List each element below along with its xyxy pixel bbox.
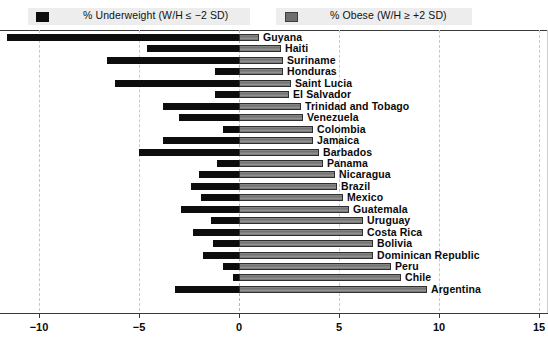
tick-label: 0 bbox=[236, 321, 242, 333]
country-label: Saint Lucia bbox=[295, 77, 352, 89]
bar-underweight[interactable] bbox=[147, 45, 239, 52]
country-label: Guyana bbox=[263, 31, 302, 43]
bar-obese[interactable] bbox=[239, 229, 363, 236]
bar-obese[interactable] bbox=[239, 194, 343, 201]
plot-area: GuyanaHaitiSurinameHondurasSaint LuciaEl… bbox=[0, 30, 548, 313]
country-label: Guatemala bbox=[353, 203, 408, 215]
bar-obese[interactable] bbox=[239, 274, 401, 281]
bar-obese[interactable] bbox=[239, 217, 363, 224]
bar-obese[interactable] bbox=[239, 114, 303, 121]
country-label: Uruguay bbox=[367, 214, 410, 226]
bar-underweight[interactable] bbox=[193, 229, 239, 236]
x-axis: −10−5051015 bbox=[0, 313, 548, 338]
bar-row[interactable]: Mexico bbox=[0, 192, 548, 203]
bar-obese[interactable] bbox=[239, 103, 301, 110]
bar-obese[interactable] bbox=[239, 91, 289, 98]
bar-obese[interactable] bbox=[239, 160, 323, 167]
bar-row[interactable]: Jamaica bbox=[0, 135, 548, 146]
bar-underweight[interactable] bbox=[223, 263, 239, 270]
bar-underweight[interactable] bbox=[223, 126, 239, 133]
bar-underweight[interactable] bbox=[163, 103, 239, 110]
x-axis-line bbox=[0, 313, 548, 314]
bar-row[interactable]: Peru bbox=[0, 261, 548, 272]
country-label: Trinidad and Tobago bbox=[305, 100, 409, 112]
bar-row[interactable]: El Salvador bbox=[0, 89, 548, 100]
bar-row[interactable]: Nicaragua bbox=[0, 169, 548, 180]
country-label: Barbados bbox=[323, 146, 372, 158]
tick-mark bbox=[139, 313, 140, 318]
bar-rows: GuyanaHaitiSurinameHondurasSaint LuciaEl… bbox=[0, 30, 548, 313]
country-label: Haiti bbox=[285, 42, 308, 54]
bar-obese[interactable] bbox=[239, 206, 349, 213]
country-label: Suriname bbox=[287, 54, 336, 66]
tick-label: 5 bbox=[336, 321, 342, 333]
bar-obese[interactable] bbox=[239, 80, 291, 87]
bar-obese[interactable] bbox=[239, 126, 313, 133]
tick-label: 15 bbox=[533, 321, 545, 333]
bar-row[interactable]: Colombia bbox=[0, 124, 548, 135]
bar-underweight[interactable] bbox=[107, 57, 239, 64]
chart-legend: % Underweight (W/H ≤ −2 SD) % Obese (W/H… bbox=[0, 0, 548, 30]
bar-underweight[interactable] bbox=[203, 252, 239, 259]
bar-obese[interactable] bbox=[239, 34, 259, 41]
legend-label-obese: % Obese (W/H ≥ +2 SD) bbox=[330, 9, 447, 21]
bar-obese[interactable] bbox=[239, 263, 391, 270]
bar-row[interactable]: Venezuela bbox=[0, 112, 548, 123]
bar-row[interactable]: Uruguay bbox=[0, 215, 548, 226]
bar-row[interactable]: Haiti bbox=[0, 43, 548, 54]
legend-label-underweight: % Underweight (W/H ≤ −2 SD) bbox=[83, 9, 228, 21]
bar-row[interactable]: Costa Rica bbox=[0, 227, 548, 238]
bar-underweight[interactable] bbox=[217, 160, 239, 167]
bar-underweight[interactable] bbox=[163, 137, 239, 144]
bar-obese[interactable] bbox=[239, 149, 319, 156]
bar-underweight[interactable] bbox=[199, 171, 239, 178]
tick-mark bbox=[339, 313, 340, 318]
bar-underweight[interactable] bbox=[211, 217, 239, 224]
country-label: Panama bbox=[327, 157, 368, 169]
country-label: El Salvador bbox=[293, 88, 351, 100]
bar-underweight[interactable] bbox=[139, 149, 239, 156]
bar-row[interactable]: Barbados bbox=[0, 147, 548, 158]
bar-row[interactable]: Suriname bbox=[0, 55, 548, 66]
legend-swatch-obese-icon bbox=[285, 12, 298, 22]
bar-obese[interactable] bbox=[239, 57, 283, 64]
bar-row[interactable]: Argentina bbox=[0, 284, 548, 295]
bar-underweight[interactable] bbox=[7, 34, 239, 41]
bar-obese[interactable] bbox=[239, 45, 281, 52]
country-label: Brazil bbox=[341, 180, 370, 192]
bar-row[interactable]: Saint Lucia bbox=[0, 78, 548, 89]
bar-row[interactable]: Guatemala bbox=[0, 204, 548, 215]
bar-obese[interactable] bbox=[239, 171, 335, 178]
bar-obese[interactable] bbox=[239, 240, 373, 247]
bar-underweight[interactable] bbox=[215, 91, 239, 98]
bar-underweight[interactable] bbox=[213, 240, 239, 247]
bar-obese[interactable] bbox=[239, 252, 373, 259]
country-label: Mexico bbox=[347, 191, 383, 203]
bar-obese[interactable] bbox=[239, 183, 337, 190]
bar-row[interactable]: Dominican Republic bbox=[0, 250, 548, 261]
country-label: Chile bbox=[405, 271, 431, 283]
country-label: Argentina bbox=[431, 283, 481, 295]
bar-underweight[interactable] bbox=[201, 194, 239, 201]
bar-row[interactable]: Guyana bbox=[0, 32, 548, 43]
bar-obese[interactable] bbox=[239, 68, 283, 75]
bar-row[interactable]: Panama bbox=[0, 158, 548, 169]
bar-underweight[interactable] bbox=[175, 286, 239, 293]
bar-obese[interactable] bbox=[239, 137, 313, 144]
bar-underweight[interactable] bbox=[191, 183, 239, 190]
country-label: Nicaragua bbox=[339, 168, 391, 180]
bar-row[interactable]: Honduras bbox=[0, 66, 548, 77]
bar-underweight[interactable] bbox=[215, 68, 239, 75]
country-label: Venezuela bbox=[307, 111, 359, 123]
tick-label: −5 bbox=[133, 321, 146, 333]
bar-underweight[interactable] bbox=[179, 114, 239, 121]
country-label: Honduras bbox=[287, 65, 337, 77]
bar-underweight[interactable] bbox=[181, 206, 239, 213]
bar-row[interactable]: Brazil bbox=[0, 181, 548, 192]
country-label: Peru bbox=[395, 260, 419, 272]
country-label: Costa Rica bbox=[367, 226, 422, 238]
bar-underweight[interactable] bbox=[115, 80, 239, 87]
bar-obese[interactable] bbox=[239, 286, 427, 293]
country-label: Dominican Republic bbox=[377, 249, 480, 261]
bar-row[interactable]: Trinidad and Tobago bbox=[0, 101, 548, 112]
